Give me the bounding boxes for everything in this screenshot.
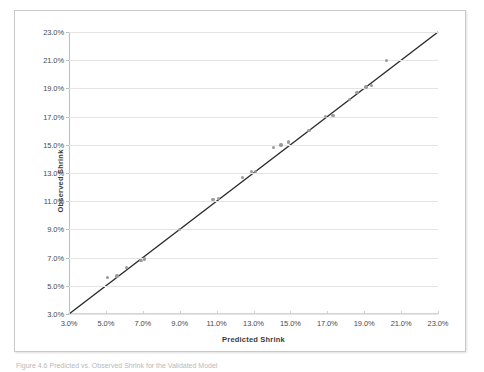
x-tick-label: 3.0% [61,319,78,328]
scatter-point [143,257,146,260]
x-tick-mark [106,311,107,314]
y-tick-label: 9.0% [47,225,64,234]
gridline-horizontal [69,173,438,174]
y-tick-label: 3.0% [47,310,64,319]
plot-area: 3.0%5.0%7.0%9.0%11.0%13.0%15.0%17.0%19.0… [69,32,438,314]
x-tick-label: 5.0% [98,319,115,328]
y-tick-mark [66,88,69,89]
x-tick-mark [180,311,181,314]
x-tick-label: 19.0% [354,319,375,328]
y-tick-label: 15.0% [43,140,64,149]
x-tick-label: 23.0% [428,319,449,328]
x-tick-mark [327,311,328,314]
gridline-horizontal [69,314,438,315]
gridline-horizontal [69,229,438,230]
y-tick-label: 19.0% [43,84,64,93]
y-tick-label: 21.0% [43,56,64,65]
y-tick-mark [66,117,69,118]
x-tick-label: 9.0% [171,319,188,328]
scatter-point [331,114,334,117]
x-tick-mark [217,311,218,314]
scatter-point [115,274,118,277]
y-tick-mark [66,60,69,61]
scatter-point [364,85,367,88]
x-tick-mark [290,311,291,314]
gridline-horizontal [69,117,438,118]
y-tick-mark [66,229,69,230]
y-tick-mark [66,314,69,315]
figure-frame: Observed Shrink 3.0%5.0%7.0%9.0%11.0%13.… [14,10,466,352]
y-tick-label: 13.0% [43,169,64,178]
scatter-point [241,176,244,179]
x-tick-mark [143,311,144,314]
y-tick-mark [66,145,69,146]
y-tick-label: 17.0% [43,112,64,121]
y-tick-label: 23.0% [43,28,64,37]
x-tick-mark [254,311,255,314]
x-tick-label: 13.0% [243,319,264,328]
scatter-chart: Observed Shrink 3.0%5.0%7.0%9.0%11.0%13.… [15,11,465,351]
y-tick-mark [66,173,69,174]
scatter-point [279,143,282,146]
x-tick-mark [69,311,70,314]
x-tick-label: 11.0% [206,319,226,328]
gridline-horizontal [69,60,438,61]
y-tick-label: 11.0% [44,197,64,206]
x-tick-mark [364,311,365,314]
gridline-horizontal [69,286,438,287]
gridline-horizontal [69,32,438,33]
y-tick-label: 7.0% [47,253,64,262]
scatter-point [385,59,388,62]
scatter-point [125,266,128,269]
x-tick-mark [438,311,439,314]
gridline-horizontal [69,88,438,89]
gridline-horizontal [69,145,438,146]
gridline-horizontal [69,201,438,202]
figure-caption: Figure 4.6 Predicted vs. Observed Shrink… [16,362,476,372]
y-tick-label: 5.0% [47,281,64,290]
y-tick-mark [66,286,69,287]
x-axis-title: Predicted Shrink [69,335,438,344]
x-tick-label: 7.0% [134,319,151,328]
x-tick-mark [401,311,402,314]
y-tick-mark [66,258,69,259]
x-tick-label: 17.0% [317,319,338,328]
scatter-point [355,91,358,94]
scatter-point [307,129,310,132]
x-tick-label: 15.0% [280,319,301,328]
y-tick-mark [66,201,69,202]
gridline-horizontal [69,258,438,259]
x-tick-label: 21.0% [391,319,412,328]
scatter-point [287,140,290,143]
y-tick-mark [66,32,69,33]
